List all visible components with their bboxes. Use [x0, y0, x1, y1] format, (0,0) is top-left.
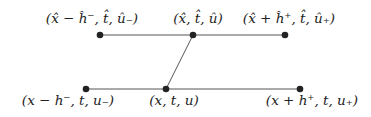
label-top-left: (x̂ − ĥ⁻, t̂, û₋) [46, 10, 138, 26]
label-top-right: (x̂ + ĥ⁺, t̂, û₊) [243, 10, 335, 26]
label-top-mid: (x̂, t̂, û) [173, 10, 222, 26]
label-bottom-left: (x − h⁻, t, u₋) [22, 92, 114, 108]
node-top-right [282, 32, 289, 39]
label-bottom-right: (x + h⁺, t, u₊) [266, 92, 358, 108]
node-top-mid [190, 32, 197, 39]
edge-connector [166, 35, 193, 89]
node-top-left [97, 32, 104, 39]
label-bottom-mid: (x, t, u) [149, 92, 198, 108]
